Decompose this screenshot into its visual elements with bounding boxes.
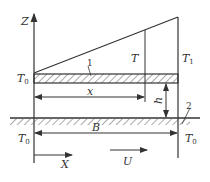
- flow-arrow: U: [110, 150, 147, 168]
- t0-bottom-right-label: T0: [185, 132, 197, 146]
- z-axis-label: Z: [20, 15, 29, 28]
- x-dimension: x: [35, 85, 144, 98]
- svg-text:T: T: [131, 52, 140, 65]
- h-dimension-label: h: [152, 97, 165, 104]
- diagram-canvas: Z 1 x h 2 B X U: [0, 0, 210, 182]
- svg-text:T0: T0: [17, 72, 29, 86]
- ground-surface: 2: [10, 101, 200, 125]
- svg-text:T1: T1: [182, 52, 194, 66]
- svg-text:T0: T0: [185, 132, 197, 146]
- temperature-profile: [34, 17, 178, 158]
- region-1-label: 1: [87, 58, 93, 68]
- t0-bottom-left-label: T0: [18, 132, 30, 146]
- flow-label: U: [123, 155, 133, 168]
- region-1-strip: 1: [34, 58, 178, 83]
- x-axis-label: X: [60, 158, 70, 171]
- region-2-label: 2: [186, 101, 192, 111]
- t1-label: T1: [182, 52, 194, 66]
- x-axis: X: [34, 155, 72, 171]
- x-dimension-label: x: [87, 85, 94, 98]
- h-dimension: h: [152, 84, 166, 117]
- t0-top-label: T0: [17, 72, 29, 86]
- b-dimension-label: B: [91, 121, 100, 134]
- svg-text:T0: T0: [18, 132, 30, 146]
- t-inner-label: T: [131, 52, 140, 65]
